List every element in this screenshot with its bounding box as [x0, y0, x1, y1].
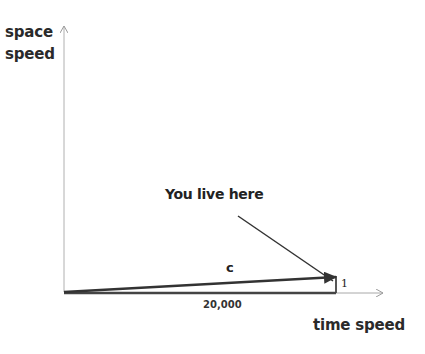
you-live-here-label: You live here: [165, 187, 263, 201]
pointer-line: [238, 216, 333, 281]
y-axis-label-line2: speed: [5, 43, 55, 65]
horizontal-value-label: 20,000: [203, 300, 242, 310]
vector-c-arrow: [64, 277, 336, 292]
vector-c-label: c: [226, 261, 234, 274]
y-axis-label-line1: space: [5, 21, 55, 43]
vertical-value-label: 1: [341, 278, 348, 289]
y-axis-label: space speed: [5, 21, 55, 65]
x-axis-label: time speed: [313, 318, 405, 333]
